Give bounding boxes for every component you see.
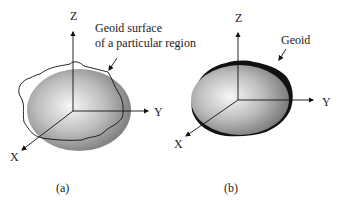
y-axis-label: Y bbox=[322, 95, 331, 109]
annotation-line-1: Geoid bbox=[281, 33, 310, 47]
z-axis-label: Z bbox=[70, 9, 77, 23]
annotation-line-1: Geoid surface bbox=[95, 21, 162, 35]
reference-ellipsoid bbox=[27, 69, 131, 151]
annotation-arrow bbox=[109, 58, 117, 70]
caption-b: (b) bbox=[224, 181, 238, 195]
x-axis-label: X bbox=[174, 137, 183, 151]
panel-a: Z Y X Geoid surface of a particular regi… bbox=[10, 9, 196, 195]
y-axis-label: Y bbox=[154, 105, 163, 119]
geoid-diagram: Z Y X Geoid surface of a particular regi… bbox=[0, 0, 339, 208]
x-axis-label: X bbox=[10, 150, 19, 164]
annotation-line-2: of a particular region bbox=[95, 36, 196, 50]
annotation-arrow bbox=[279, 49, 286, 60]
z-axis-label: Z bbox=[235, 11, 242, 25]
panel-b: Z Y X Geoid (b) bbox=[174, 11, 331, 195]
caption-a: (a) bbox=[56, 181, 69, 195]
